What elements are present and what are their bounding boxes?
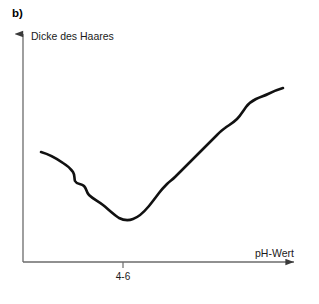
figure-root: b) Dicke des Haares pH-Wert 4-6: [0, 0, 319, 304]
y-axis-label: Dicke des Haares: [31, 31, 114, 42]
data-curve-dicke-des-haares: [41, 88, 283, 220]
x-axis-tick-label: 4-6: [116, 272, 130, 282]
x-axis-label: pH-Wert: [255, 248, 294, 259]
